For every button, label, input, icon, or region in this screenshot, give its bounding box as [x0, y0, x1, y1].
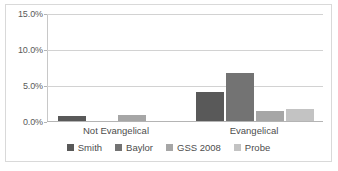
legend-swatch-icon — [166, 144, 173, 151]
legend-swatch-icon — [115, 144, 122, 151]
legend-swatch-icon — [234, 144, 241, 151]
bar — [256, 111, 284, 121]
legend-item[interactable]: Probe — [234, 142, 270, 153]
y-axis-tick-label: 0.0% — [23, 117, 43, 127]
legend-label: Baylor — [126, 142, 153, 153]
bar-group — [48, 14, 186, 121]
category-label: Evangelical — [185, 125, 323, 136]
category-label: Not Evangelical — [47, 125, 185, 136]
y-axis-tick-label: 15.0% — [18, 9, 43, 19]
bar-group — [186, 14, 324, 121]
y-axis-tick-label: 10.0% — [18, 45, 43, 55]
y-axis-tick-mark — [44, 86, 47, 87]
y-axis-tick-mark — [44, 122, 47, 123]
legend-item[interactable]: Baylor — [115, 142, 153, 153]
chart-legend: SmithBaylorGSS 2008Probe — [6, 142, 331, 153]
y-axis-tick-mark — [44, 14, 47, 15]
legend-item[interactable]: GSS 2008 — [166, 142, 221, 153]
legend-label: Smith — [78, 142, 102, 153]
bar — [226, 73, 254, 121]
legend-swatch-icon — [67, 144, 74, 151]
bar — [118, 115, 146, 121]
bar — [196, 92, 224, 121]
y-axis-tick-label: 5.0% — [23, 81, 43, 91]
legend-label: Probe — [245, 142, 270, 153]
bars-layer — [48, 14, 323, 121]
legend-item[interactable]: Smith — [67, 142, 102, 153]
y-axis-tick-mark — [44, 50, 47, 51]
x-axis-baseline — [47, 121, 323, 122]
plot-area: 0.0%5.0%10.0%15.0% — [47, 14, 323, 122]
bar — [286, 109, 314, 121]
chart-frame: 0.0%5.0%10.0%15.0% Not EvangelicalEvange… — [5, 4, 332, 162]
legend-label: GSS 2008 — [177, 142, 221, 153]
bar — [58, 116, 86, 121]
